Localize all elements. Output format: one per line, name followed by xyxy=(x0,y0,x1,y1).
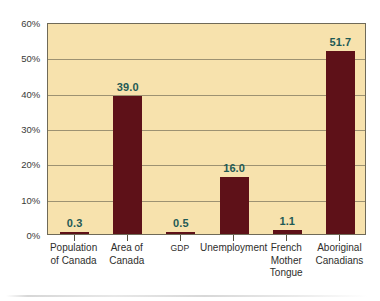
x-tick xyxy=(233,235,234,241)
bars-layer: 0.339.00.516.01.151.7 xyxy=(48,24,365,234)
bar-value-label: 0.3 xyxy=(45,217,105,229)
x-tick xyxy=(339,235,340,241)
y-tick-label: 60% xyxy=(21,18,40,29)
x-axis-labels: Population of CanadaArea of CanadaGDPUne… xyxy=(47,242,366,300)
bar xyxy=(220,177,249,234)
x-tick xyxy=(74,235,75,241)
y-tick-label: 30% xyxy=(21,124,40,135)
x-axis-ticks xyxy=(47,235,366,241)
bar xyxy=(60,232,89,234)
x-tick xyxy=(286,235,287,241)
y-tick-label: 20% xyxy=(21,159,40,170)
bar-value-label: 51.7 xyxy=(310,36,370,48)
y-tick-label: 50% xyxy=(21,53,40,64)
bar xyxy=(113,96,142,234)
page-scan-artifact xyxy=(6,295,368,297)
bar-value-label: 39.0 xyxy=(98,81,158,93)
bar xyxy=(273,230,302,234)
bar xyxy=(326,51,355,234)
plot-area: 0.339.00.516.01.151.7 xyxy=(47,23,366,235)
bar-chart-figure: 0%10%20%30%40%50%60% 0.339.00.516.01.151… xyxy=(0,0,380,301)
bar xyxy=(166,232,195,234)
x-axis-category-label: Aboriginal Canadians xyxy=(306,242,372,267)
y-tick-label: 0% xyxy=(26,230,40,241)
bar-value-label: 16.0 xyxy=(204,162,264,174)
y-axis: 0%10%20%30%40%50%60% xyxy=(0,0,44,301)
bar-value-label: 1.1 xyxy=(257,215,317,227)
x-tick xyxy=(180,235,181,241)
y-tick-label: 40% xyxy=(21,88,40,99)
bar-value-label: 0.5 xyxy=(151,217,211,229)
y-tick-label: 10% xyxy=(21,194,40,205)
x-tick xyxy=(127,235,128,241)
